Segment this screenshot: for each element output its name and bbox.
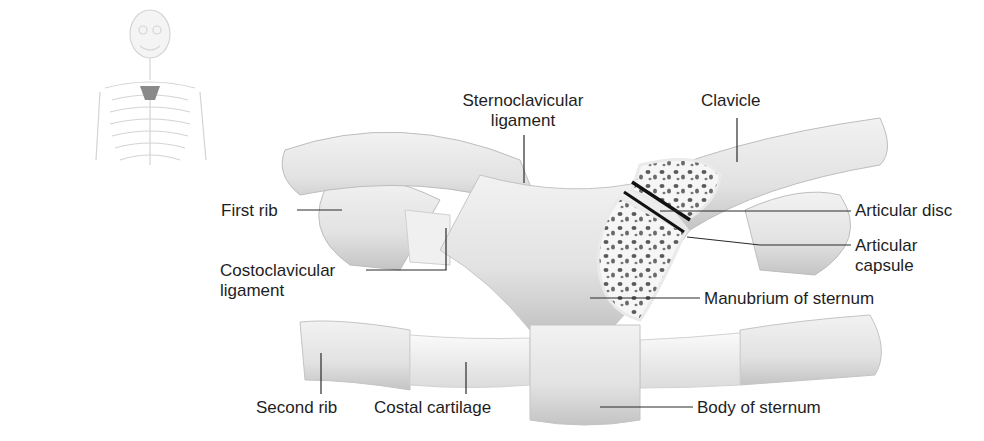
- first-rib-right: [745, 192, 851, 275]
- second-rib-left: [300, 321, 410, 390]
- second-rib-right: [740, 315, 881, 385]
- label-line: Articular: [855, 236, 917, 256]
- body-of-sternum: [530, 325, 640, 425]
- label-sternoclavicular-ligament: Sternoclavicular ligament: [448, 91, 598, 131]
- label-first-rib: First rib: [221, 201, 278, 221]
- label-line: ligament: [448, 111, 598, 131]
- label-body-of-sternum: Body of sternum: [697, 398, 821, 418]
- label-line: Sternoclavicular: [448, 91, 598, 111]
- label-articular-disc: Articular disc: [855, 201, 952, 221]
- label-line: ligament: [220, 281, 335, 301]
- label-costoclavicular-ligament: Costoclavicular ligament: [220, 261, 335, 301]
- label-costal-cartilage: Costal cartilage: [374, 398, 491, 418]
- costal-cartilage-left: [410, 335, 530, 388]
- joint-illustration: [0, 0, 984, 441]
- label-line: capsule: [855, 256, 917, 276]
- costal-cartilage-right: [640, 333, 740, 388]
- label-second-rib: Second rib: [256, 398, 337, 418]
- label-clavicle: Clavicle: [701, 91, 761, 111]
- label-manubrium-of-sternum: Manubrium of sternum: [704, 289, 874, 309]
- sternoclavicular-joint-diagram: Sternoclavicular ligament Clavicle First…: [0, 0, 984, 441]
- label-articular-capsule: Articular capsule: [855, 236, 917, 276]
- label-line: Costoclavicular: [220, 261, 335, 281]
